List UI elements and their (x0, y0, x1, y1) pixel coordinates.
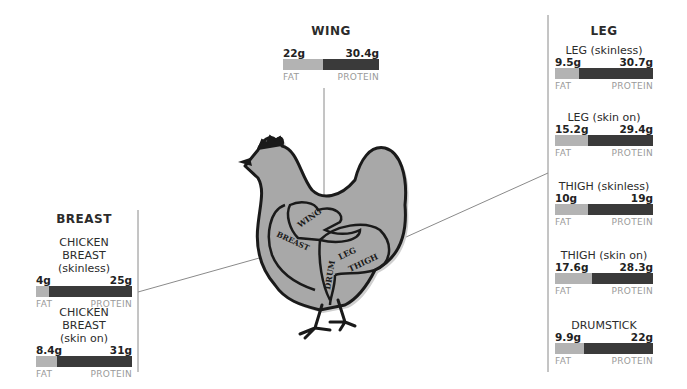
item-title-line1: CHICKEN BREAST (36, 236, 132, 262)
protein-bar-segment (588, 204, 653, 215)
fat-bar-segment (555, 135, 588, 146)
protein-value: 22g (631, 332, 653, 343)
wing-title: WING (283, 24, 379, 38)
protein-value: 25g (110, 275, 132, 286)
protein-label: PROTEIN (612, 216, 653, 228)
fat-protein-bar (555, 135, 653, 146)
fat-bar-segment (36, 286, 49, 297)
protein-value: 31g (110, 345, 132, 356)
protein-value: 30.4g (346, 48, 379, 59)
fat-value: 9.5g (555, 57, 581, 68)
breast-connector-line (138, 255, 270, 292)
fat-protein-bar (36, 286, 132, 297)
protein-label: PROTEIN (612, 355, 653, 367)
protein-value: 28.3g (620, 262, 653, 273)
leg-panel: LEG LEG (skinless) 9.5g30.7g FATPROTEIN … (555, 24, 653, 38)
fat-protein-bar (555, 273, 653, 284)
fat-protein-bar (36, 356, 132, 367)
fat-protein-bar (555, 204, 653, 215)
protein-label: PROTEIN (612, 80, 653, 92)
fat-label: FAT (36, 368, 52, 380)
fat-label: FAT (555, 80, 571, 92)
fat-value: 4g (36, 275, 51, 286)
protein-value: 29.4g (620, 124, 653, 135)
protein-value: 19g (631, 193, 653, 204)
fat-value: 15.2g (555, 124, 588, 135)
fat-value: 8.4g (36, 345, 62, 356)
breast-panel: BREAST CHICKEN BREAST (skinless) 4g25g F… (36, 212, 132, 226)
fat-value: 10g (555, 193, 577, 204)
wing-item: 22g30.4g FATPROTEIN (283, 48, 379, 83)
fat-value: 17.6g (555, 262, 588, 273)
fat-label: FAT (555, 355, 571, 367)
protein-bar-segment (57, 356, 132, 367)
fat-label: FAT (283, 71, 299, 83)
leg-item-drumstick: DRUMSTICK 9.9g22g FATPROTEIN (555, 319, 653, 367)
fat-protein-bar (283, 59, 379, 70)
breast-title: BREAST (36, 212, 132, 226)
fat-label: FAT (555, 216, 571, 228)
protein-bar-segment (579, 68, 653, 79)
fat-label: FAT (555, 147, 571, 159)
protein-bar-segment (588, 135, 653, 146)
leg-title: LEG (555, 24, 653, 38)
fat-bar-segment (555, 343, 584, 354)
breast-item-skin-on: CHICKEN BREAST (skin on) 8.4g31g FATPROT… (36, 306, 132, 380)
fat-value: 9.9g (555, 332, 581, 343)
protein-value: 30.7g (620, 57, 653, 68)
protein-label: PROTEIN (612, 285, 653, 297)
fat-label: FAT (555, 285, 571, 297)
leg-item-leg-skin-on: LEG (skin on) 15.2g29.4g FATPROTEIN (555, 111, 653, 159)
wing-panel: WING 22g30.4g FATPROTEIN (283, 24, 379, 38)
protein-bar-segment (323, 59, 379, 70)
leg-item-leg-skinless: LEG (skinless) 9.5g30.7g FATPROTEIN (555, 44, 653, 92)
leg-item-thigh-skinless: THIGH (skinless) 10g19g FATPROTEIN (555, 180, 653, 228)
leg-item-thigh-skin-on: THIGH (skin on) 17.6g28.3g FATPROTEIN (555, 249, 653, 297)
protein-bar-segment (49, 286, 132, 297)
fat-bar-segment (555, 273, 592, 284)
item-title-line1: CHICKEN BREAST (36, 306, 132, 332)
protein-label: PROTEIN (612, 147, 653, 159)
protein-bar-segment (584, 343, 653, 354)
protein-bar-segment (592, 273, 653, 284)
fat-bar-segment (555, 68, 579, 79)
fat-value: 22g (283, 48, 305, 59)
fat-protein-bar (555, 68, 653, 79)
fat-bar-segment (36, 356, 57, 367)
breast-item-skinless: CHICKEN BREAST (skinless) 4g25g FATPROTE… (36, 236, 132, 310)
fat-bar-segment (555, 204, 588, 215)
protein-label: PROTEIN (338, 71, 379, 83)
fat-bar-segment (283, 59, 323, 70)
leg-connector-line (395, 173, 548, 242)
protein-label: PROTEIN (91, 368, 132, 380)
fat-protein-bar (555, 343, 653, 354)
